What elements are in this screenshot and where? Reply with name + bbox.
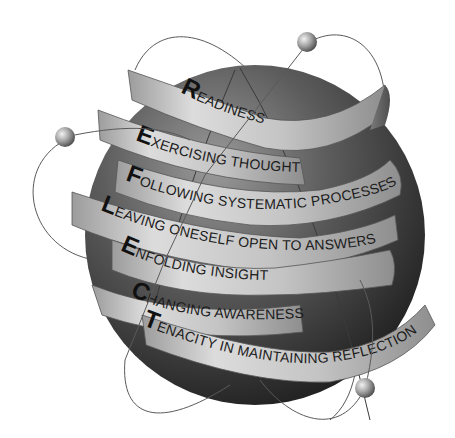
orbit-ball-bottom-right	[355, 378, 375, 398]
orbit-ball-top-right	[297, 32, 317, 52]
orbit-ball-left	[55, 127, 75, 147]
reflection-diagram: READINESS EXERCISING THOUGHT FOLLOWING S…	[0, 0, 455, 438]
